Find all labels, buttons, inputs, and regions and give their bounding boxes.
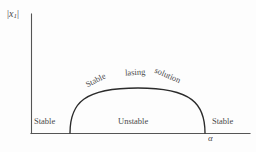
- bifurcation-diagram-figure: |x1| α Stable lasing solution Stable Uns…: [0, 0, 256, 152]
- y-axis-label: |x1|: [7, 9, 19, 20]
- baseline-label-stable-right: Stable: [212, 117, 233, 126]
- baseline-label-unstable: Unstable: [118, 117, 148, 126]
- y-axis-label-bar-close: |: [17, 8, 19, 19]
- baseline-label-stable-left: Stable: [34, 117, 55, 126]
- arc-label-word-lasing: lasing: [125, 67, 146, 77]
- x-axis-label: α: [208, 134, 213, 143]
- stable-lasing-branch-curve: [70, 88, 205, 133]
